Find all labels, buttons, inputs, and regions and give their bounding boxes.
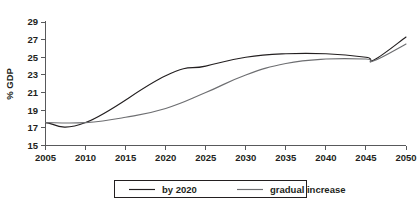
y-tick-label: 27 xyxy=(27,34,38,45)
x-tick-label: 2020 xyxy=(155,152,176,163)
x-tick-label: 2050 xyxy=(395,152,416,163)
chart-legend: by 2020gradual increase xyxy=(115,181,346,198)
legend-label-1: gradual increase xyxy=(270,184,346,195)
y-tick-label: 25 xyxy=(27,52,38,63)
x-tick-label: 2015 xyxy=(115,152,137,163)
y-axis-ticks: 1517192123252729 xyxy=(27,16,45,151)
line-chart: % GDP 1517192123252729 20052010201520202… xyxy=(0,0,420,203)
series-line-by-2020 xyxy=(46,37,407,127)
chart-container: % GDP 1517192123252729 20052010201520202… xyxy=(0,0,420,203)
y-axis-title-label: % GDP xyxy=(4,68,15,100)
y-tick-label: 29 xyxy=(27,16,38,27)
x-tick-label: 2005 xyxy=(35,152,57,163)
y-tick-label: 15 xyxy=(27,140,38,151)
y-tick-label: 21 xyxy=(27,87,38,98)
y-tick-label: 17 xyxy=(27,122,38,133)
x-tick-label: 2025 xyxy=(195,152,217,163)
x-tick-label: 2035 xyxy=(275,152,297,163)
y-tick-label: 19 xyxy=(27,105,38,116)
x-tick-label: 2010 xyxy=(75,152,96,163)
y-tick-label: 23 xyxy=(27,69,38,80)
x-axis-ticks: 2005201020152020202520302035204020452050 xyxy=(35,146,417,164)
legend-label-0: by 2020 xyxy=(162,184,197,195)
x-tick-label: 2030 xyxy=(235,152,256,163)
series-lines xyxy=(46,37,407,127)
x-tick-label: 2045 xyxy=(355,152,377,163)
y-axis-title: % GDP xyxy=(4,68,15,100)
x-tick-label: 2040 xyxy=(315,152,336,163)
